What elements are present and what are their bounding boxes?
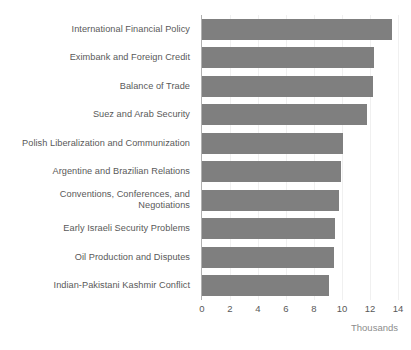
bar[interactable] xyxy=(202,275,329,296)
x-axis-tick-label: 6 xyxy=(283,303,288,315)
category-label: Early Israeli Security Problems xyxy=(0,223,190,234)
category-label: Eximbank and Foreign Credit xyxy=(0,52,190,63)
x-axis-tick-label: 12 xyxy=(365,303,376,315)
category-label: Suez and Arab Security xyxy=(0,109,190,120)
value-axis-ticks: 02468101214 xyxy=(202,303,398,317)
x-axis-tick-label: 10 xyxy=(337,303,348,315)
category-axis-labels: International Financial PolicyEximbank a… xyxy=(0,15,196,300)
x-axis-tick-label: 14 xyxy=(393,303,404,315)
bar[interactable] xyxy=(202,190,339,211)
gridline xyxy=(398,15,399,300)
category-label: Balance of Trade xyxy=(0,81,190,92)
bar[interactable] xyxy=(202,247,334,268)
x-axis-tick-label: 8 xyxy=(311,303,316,315)
bar[interactable] xyxy=(202,76,373,97)
category-label: Oil Production and Disputes xyxy=(0,252,190,263)
axis-caption: Thousands xyxy=(351,322,398,334)
bar[interactable] xyxy=(202,104,367,125)
bar[interactable] xyxy=(202,161,341,182)
bar[interactable] xyxy=(202,133,343,154)
category-label: Argentine and Brazilian Relations xyxy=(0,166,190,177)
bar[interactable] xyxy=(202,19,392,40)
category-label: Indian-Pakistani Kashmir Conflict xyxy=(0,280,190,291)
bar[interactable] xyxy=(202,47,374,68)
category-label: Conventions, Conferences, and Negotiatio… xyxy=(0,189,190,211)
bar-chart: International Financial PolicyEximbank a… xyxy=(0,0,411,350)
category-label: Polish Liberalization and Communization xyxy=(0,138,190,149)
plot-area xyxy=(202,15,398,300)
x-axis-tick-label: 4 xyxy=(255,303,260,315)
x-axis-tick-label: 0 xyxy=(199,303,204,315)
bar[interactable] xyxy=(202,218,335,239)
category-label: International Financial Policy xyxy=(0,24,190,35)
x-axis-tick-label: 2 xyxy=(227,303,232,315)
